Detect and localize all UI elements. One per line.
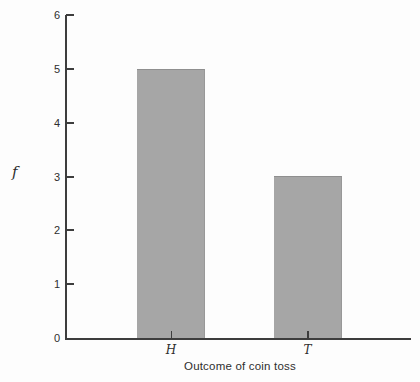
x-tick-mark	[171, 331, 173, 340]
y-tick-mark	[66, 229, 74, 231]
y-tick-label: 2	[32, 223, 60, 237]
bar-H	[137, 69, 205, 338]
y-tick-label: 4	[32, 116, 60, 130]
y-tick-label: 3	[32, 170, 60, 184]
x-axis-line	[65, 338, 411, 340]
y-tick-label: 6	[32, 8, 60, 22]
y-tick-label: 5	[32, 62, 60, 76]
bar-T	[274, 176, 342, 338]
x-category-label-H: H	[156, 343, 186, 357]
x-category-label-T: T	[293, 343, 323, 357]
y-tick-mark	[66, 68, 74, 70]
y-tick-mark	[66, 122, 74, 124]
y-tick-mark	[66, 14, 74, 16]
y-tick-mark	[66, 176, 74, 178]
y-tick-label: 1	[32, 277, 60, 291]
coin-toss-frequency-bar-chart: 0123456 HT f Outcome of coin toss	[0, 0, 420, 382]
x-axis-label: Outcome of coin toss	[140, 360, 340, 372]
y-tick-label: 0	[32, 331, 60, 345]
y-axis-label: f	[12, 163, 18, 181]
x-tick-mark	[307, 331, 309, 340]
y-tick-mark	[66, 283, 74, 285]
